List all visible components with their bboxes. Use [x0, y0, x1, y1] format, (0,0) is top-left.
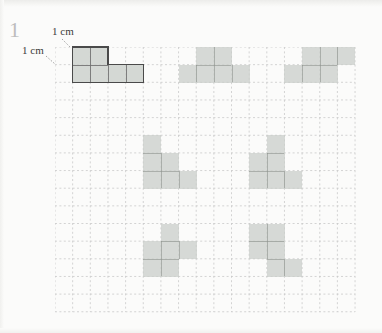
shape-cell	[267, 259, 285, 277]
shape-seam	[267, 259, 285, 260]
shapes-layer	[55, 47, 355, 315]
shape-seam	[249, 241, 267, 242]
cm-label-top: 1 cm	[52, 26, 74, 37]
shape-cell	[249, 224, 267, 242]
shape-7	[55, 47, 355, 315]
exercise-number: 1	[9, 19, 20, 41]
shape-seam	[267, 241, 268, 259]
shape-cell	[284, 259, 302, 277]
worksheet-page: 1 1 cm 1 cm	[0, 0, 382, 333]
centimetre-grid	[55, 47, 355, 315]
shape-cell	[267, 241, 285, 259]
shape-seam	[284, 259, 285, 277]
shape-cell	[267, 224, 285, 242]
cm-label-left: 1 cm	[22, 45, 44, 56]
shape-seam	[267, 224, 268, 242]
page-left-edge	[0, 0, 4, 333]
page-top-edge	[0, 0, 382, 7]
page-bottom-edge	[0, 328, 382, 333]
shape-seam	[267, 241, 285, 242]
shape-cell	[249, 241, 267, 259]
